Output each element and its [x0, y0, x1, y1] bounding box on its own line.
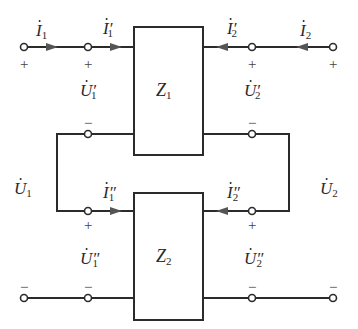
voltage-label-u1-double-prime: U″1 [80, 250, 98, 269]
terminal-z1-port2-minus [249, 131, 256, 138]
current-label-i1-prime: I′1 [103, 20, 113, 39]
terminal-z2-port1-minus [85, 295, 92, 302]
arrow-left-icon [296, 43, 308, 51]
current-label-i2-double-prime: I″2 [227, 184, 238, 203]
arrow-right-icon [46, 43, 58, 51]
current-label-i1: I1 [36, 22, 47, 41]
current-label-i2-prime: I′2 [227, 20, 237, 39]
polarity-minus: − [248, 280, 256, 295]
current-label-i1-double-prime: I″1 [103, 184, 114, 203]
terminal-port2-minus [330, 295, 337, 302]
terminal-z2-port1-plus [85, 208, 92, 215]
network-label-z2: Z2 [156, 246, 172, 267]
polarity-plus: + [248, 57, 256, 72]
right-middle-loop [203, 134, 289, 211]
arrow-right-icon [110, 207, 122, 215]
arrow-left-icon [216, 43, 228, 51]
polarity-minus: − [84, 116, 92, 131]
arrow-left-icon [216, 207, 228, 215]
network-label-z1: Z1 [156, 80, 172, 101]
polarity-plus: + [248, 218, 256, 233]
voltage-label-u2-prime: U′2 [244, 82, 261, 101]
voltage-label-u1: U1 [14, 180, 32, 199]
series-two-port-diagram: Z1 Z2 I1 I′1 I′2 I2 I″1 I″2 U′1 U′2 U1 U… [0, 0, 358, 329]
polarity-plus: + [84, 218, 92, 233]
polarity-plus: + [20, 57, 28, 72]
terminal-port1-plus [21, 44, 28, 51]
polarity-plus: + [329, 57, 337, 72]
voltage-label-u2-double-prime: U″2 [244, 250, 262, 269]
terminal-z1-port2-plus [249, 44, 256, 51]
polarity-minus: − [20, 280, 28, 295]
voltage-label-u1-prime: U′1 [80, 82, 97, 101]
polarity-minus: − [84, 280, 92, 295]
left-middle-loop [57, 134, 134, 211]
polarity-minus: − [248, 116, 256, 131]
arrow-right-icon [110, 43, 122, 51]
polarity-minus: − [329, 280, 337, 295]
terminal-port1-minus [21, 295, 28, 302]
circuit-wiring [0, 0, 358, 329]
terminal-z2-port2-minus [249, 295, 256, 302]
polarity-plus: + [84, 57, 92, 72]
voltage-label-u2: U2 [320, 180, 338, 199]
current-label-i2: I2 [300, 22, 311, 41]
terminal-z1-port1-plus [85, 44, 92, 51]
terminal-z1-port1-minus [85, 131, 92, 138]
terminal-z2-port2-plus [249, 208, 256, 215]
terminal-port2-plus [330, 44, 337, 51]
